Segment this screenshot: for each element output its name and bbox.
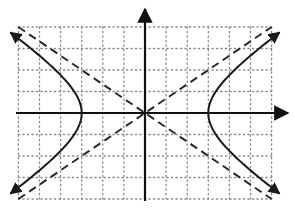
plot-canvas	[0, 0, 295, 213]
hyperbola-graph	[0, 0, 295, 213]
